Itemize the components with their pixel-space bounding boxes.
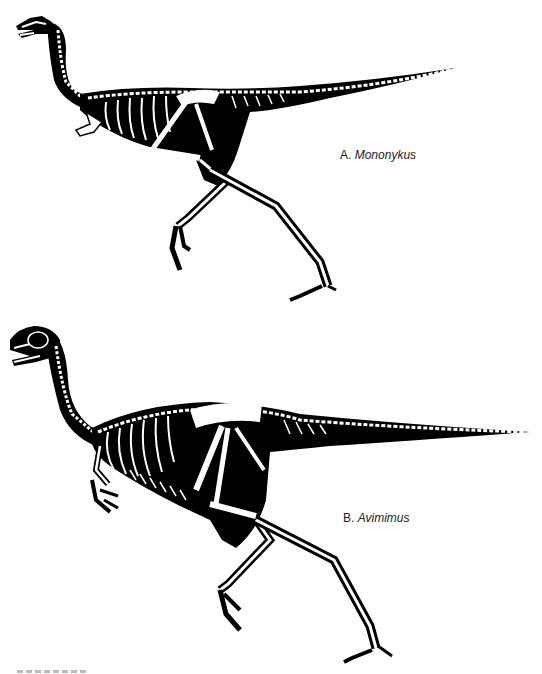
panel-letter-a: A. xyxy=(340,148,351,162)
skeletal-reconstruction-figure: A. Mononykus B. Avimimus xyxy=(0,0,542,674)
panel-label-b: B. Avimimus xyxy=(343,511,409,525)
taxon-name-avimimus: Avimimus xyxy=(358,511,410,525)
avimimus-skeleton xyxy=(10,326,530,662)
panel-letter-b: B. xyxy=(343,511,354,525)
panel-label-a: A. Mononykus xyxy=(340,148,416,162)
taxon-name-mononykus: Mononykus xyxy=(355,148,416,162)
clipped-figure-caption xyxy=(17,670,87,673)
